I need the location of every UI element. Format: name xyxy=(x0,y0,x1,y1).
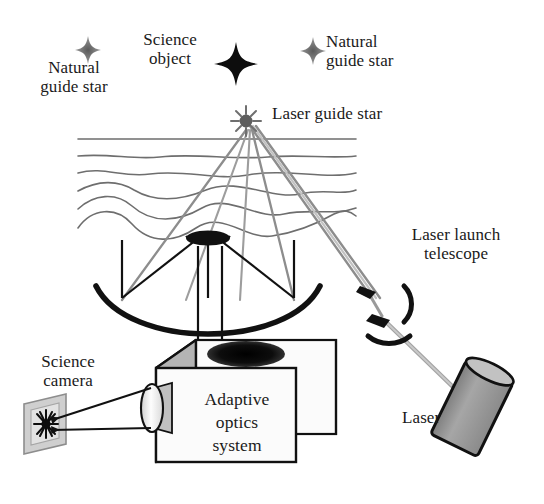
wavefront-line-4 xyxy=(78,183,356,199)
adaptive-optics-diagram: Natural guide star Science object Natura… xyxy=(0,0,544,504)
star-laser-guide-star xyxy=(231,106,261,136)
ao-box-front-panel xyxy=(156,368,296,462)
wavefront-line-2 xyxy=(78,155,356,158)
focused-star-core xyxy=(41,419,50,428)
ao-box-entrance-aperture xyxy=(207,341,285,367)
science-camera-group xyxy=(24,394,66,454)
laser-feed-beam-highlight xyxy=(387,323,451,385)
science-beam-group xyxy=(52,388,151,430)
ao-box-front-panel-group xyxy=(156,368,296,462)
atmosphere-wavefront-layers xyxy=(78,139,356,239)
launch-telescope-mount-arc-right xyxy=(404,286,412,322)
laser-downlink-beam-inner-right xyxy=(240,130,250,300)
laser-unit-group xyxy=(430,353,516,457)
science-beam-lower xyxy=(52,428,151,430)
launch-lower-fold-mirror xyxy=(366,314,390,328)
natural-guide-star-right-glyph xyxy=(300,37,326,65)
laser-uplink-beam-edge-b xyxy=(256,126,380,298)
star-science-object xyxy=(214,42,258,86)
laser-guide-star-core xyxy=(240,115,253,128)
secondary-mirror xyxy=(186,231,230,246)
science-object-glyph xyxy=(214,42,258,86)
diagram-canvas xyxy=(0,0,544,504)
natural-guide-star-left-glyph xyxy=(75,36,101,64)
star-natural-guide-star-left xyxy=(75,36,101,64)
laser-launch-telescope-group xyxy=(356,286,412,344)
reflected-ray-right xyxy=(220,240,294,298)
science-beam-upper xyxy=(52,388,151,420)
star-natural-guide-star-right xyxy=(300,37,326,65)
laser-uplink-beam-edge-a xyxy=(250,126,372,298)
